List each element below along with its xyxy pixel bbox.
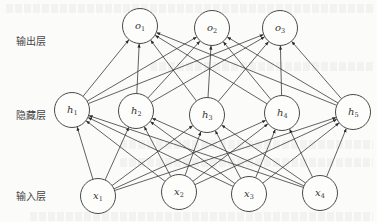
node-group: o1o2o3h1h2h3h4h5x1x2x3x4 <box>55 9 371 214</box>
node-subscript: 2 <box>137 110 141 118</box>
node-h3: h3 <box>190 98 225 133</box>
edge-x2-to-h1 <box>86 121 165 181</box>
node-subscript: 4 <box>283 112 287 120</box>
node-x1: x1 <box>81 179 116 214</box>
node-h1: h1 <box>55 93 90 128</box>
node-x4: x4 <box>303 176 338 211</box>
node-o3: o3 <box>263 11 298 46</box>
edge-x1-to-h1 <box>77 127 93 179</box>
edge-h3-to-o3 <box>218 42 268 102</box>
node-x2: x2 <box>162 175 197 210</box>
node-subscript: 1 <box>99 195 103 203</box>
edge-h5-to-o1 <box>157 33 337 106</box>
node-h5: h5 <box>336 95 371 130</box>
node-subscript: 2 <box>180 191 184 199</box>
node-subscript: 1 <box>141 25 145 33</box>
node-x3: x3 <box>232 177 267 212</box>
edge-x4-to-h4 <box>290 129 313 177</box>
edge-h2-to-o1 <box>137 44 139 94</box>
node-subscript: 1 <box>73 109 77 117</box>
edge-x3-to-h4 <box>256 130 276 178</box>
edge-h5-to-o2 <box>228 37 339 103</box>
network-graph: o1o2o3h1h2h3h4h5x1x2x3x4 <box>0 0 377 222</box>
edge-h1-to-o2 <box>87 37 196 101</box>
node-subscript: 3 <box>281 27 285 35</box>
edge-h1-to-o1 <box>83 40 129 96</box>
node-h4: h4 <box>265 96 300 131</box>
edge-h3-to-o1 <box>151 40 197 101</box>
node-subscript: 3 <box>250 193 254 201</box>
edge-h4-to-o3 <box>280 46 281 96</box>
node-subscript: 5 <box>354 111 358 119</box>
node-subscript: 4 <box>321 192 325 200</box>
edge-x3-to-h3 <box>215 131 240 179</box>
node-subscript: 3 <box>208 114 212 122</box>
edge-h4-to-o2 <box>223 42 271 100</box>
edge-h1-to-o3 <box>88 35 263 104</box>
node-h2: h2 <box>119 94 154 129</box>
node-subscript: 2 <box>213 27 217 35</box>
node-o1: o1 <box>123 9 158 44</box>
neural-network-figure: 输出层 隐藏层 输入层 o1o2o3h1h2h3h4h5x1x2x3x4 <box>0 0 377 222</box>
edge-x1-to-h5 <box>115 118 336 191</box>
node-o2: o2 <box>195 11 230 46</box>
edge-x4-to-h5 <box>327 129 347 177</box>
